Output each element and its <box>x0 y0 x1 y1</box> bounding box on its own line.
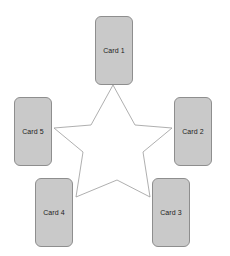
card-5-label: Card 5 <box>22 128 44 136</box>
card-3[interactable]: Card 3 <box>152 178 190 247</box>
card-5[interactable]: Card 5 <box>14 97 52 166</box>
diagram-canvas: Card 1 Card 2 Card 3 Card 4 Card 5 <box>0 0 230 256</box>
card-4[interactable]: Card 4 <box>35 178 73 247</box>
card-4-label: Card 4 <box>43 209 65 217</box>
card-3-label: Card 3 <box>160 209 182 217</box>
card-2[interactable]: Card 2 <box>174 97 212 166</box>
card-1-label: Card 1 <box>103 47 125 55</box>
card-1[interactable]: Card 1 <box>95 16 133 85</box>
card-2-label: Card 2 <box>182 128 204 136</box>
